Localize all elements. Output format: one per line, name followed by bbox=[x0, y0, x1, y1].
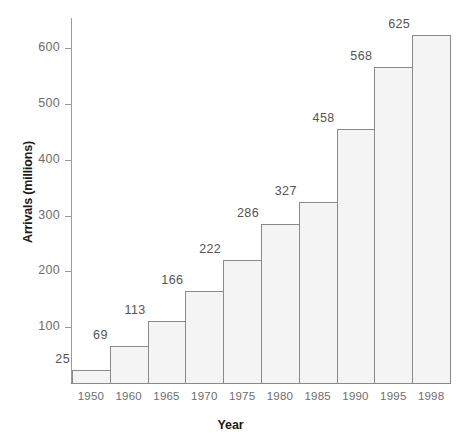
y-tick-label-text: 100 bbox=[20, 319, 60, 333]
y-tick-label: 100 bbox=[18, 319, 60, 333]
y-tick-label-text: 300 bbox=[20, 208, 60, 222]
bar-value-label: 166 bbox=[141, 273, 183, 287]
bar[interactable] bbox=[110, 346, 149, 384]
y-tick-label-text: 200 bbox=[20, 263, 60, 277]
bar[interactable] bbox=[148, 321, 187, 384]
bar-value-label: 458 bbox=[293, 111, 335, 125]
y-tick-mark bbox=[65, 48, 71, 49]
x-tick-label: 1980 bbox=[261, 390, 299, 402]
y-tick-label-text: 400 bbox=[20, 152, 60, 166]
y-tick-label-text: 600 bbox=[20, 40, 60, 54]
x-tick-label: 1985 bbox=[299, 390, 337, 402]
bar-value-label: 327 bbox=[255, 184, 297, 198]
bar[interactable] bbox=[412, 35, 451, 384]
y-tick-mark bbox=[65, 160, 71, 161]
bar-value-label: 113 bbox=[104, 303, 146, 317]
x-tick-label: 1975 bbox=[223, 390, 261, 402]
x-tick-label: 1965 bbox=[148, 390, 186, 402]
x-axis-title: Year bbox=[0, 418, 461, 432]
bar-value-label: 222 bbox=[179, 242, 221, 256]
y-tick-label: 500 bbox=[18, 96, 60, 110]
bar[interactable] bbox=[72, 370, 111, 384]
y-tick-label: 600 bbox=[18, 40, 60, 54]
bar-value-label: 25 bbox=[28, 352, 70, 366]
bar-value-label: 625 bbox=[368, 17, 410, 31]
bar[interactable] bbox=[223, 260, 262, 384]
y-axis-title: Arrivals (millions) bbox=[21, 92, 35, 292]
y-tick-label: 400 bbox=[18, 152, 60, 166]
bar-value-label: 568 bbox=[330, 49, 372, 63]
bar-value-label: 69 bbox=[66, 328, 108, 342]
y-tick-label-text: 500 bbox=[20, 96, 60, 110]
y-tick-mark bbox=[65, 216, 71, 217]
bar[interactable] bbox=[299, 202, 338, 384]
bar-value-label: 286 bbox=[217, 206, 259, 220]
x-tick-label: 1998 bbox=[412, 390, 450, 402]
y-tick-mark bbox=[65, 271, 71, 272]
bar[interactable] bbox=[374, 67, 413, 384]
bar[interactable] bbox=[337, 129, 376, 384]
plot-area bbox=[72, 18, 450, 384]
y-tick-label: 200 bbox=[18, 263, 60, 277]
x-tick-label: 1950 bbox=[72, 390, 110, 402]
bar-chart: Arrivals (millions) 100200300400500600 2… bbox=[0, 0, 461, 442]
bar[interactable] bbox=[261, 224, 300, 384]
x-tick-label: 1960 bbox=[110, 390, 148, 402]
bar[interactable] bbox=[185, 291, 224, 384]
y-tick-mark bbox=[65, 104, 71, 105]
x-tick-label: 1990 bbox=[337, 390, 375, 402]
x-tick-label: 1995 bbox=[374, 390, 412, 402]
y-tick-label: 300 bbox=[18, 208, 60, 222]
x-tick-label: 1970 bbox=[185, 390, 223, 402]
